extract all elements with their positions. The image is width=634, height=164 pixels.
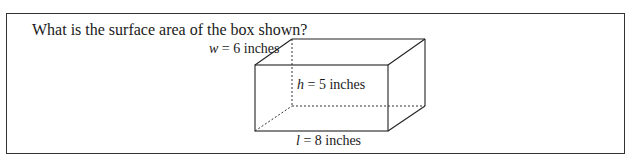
height-label: h = 5 inches [297, 77, 365, 93]
hidden-depth-edge [255, 106, 292, 131]
width-label: w = 6 inches [209, 41, 280, 57]
top-right-edge [388, 39, 425, 65]
front-face [255, 65, 388, 131]
length-label: l = 8 inches [296, 133, 361, 149]
bottom-right-edge [388, 106, 425, 131]
